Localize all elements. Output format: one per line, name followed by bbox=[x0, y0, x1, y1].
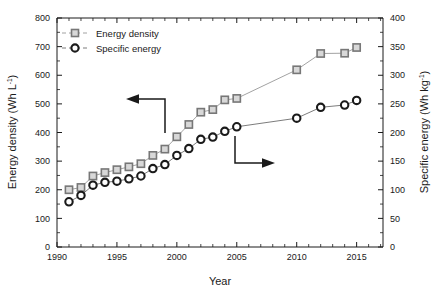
y-left-axis-title-base: Energy density (Wh L bbox=[6, 84, 18, 189]
legend-item-energy-density: Energy density bbox=[62, 28, 159, 39]
data-point-circle bbox=[149, 165, 156, 172]
data-point-circle bbox=[77, 192, 84, 199]
x-tick-label: 1995 bbox=[107, 252, 127, 262]
left-axis-tick-labels: 0100200300400500600700800 bbox=[35, 13, 50, 252]
data-point-circle bbox=[197, 136, 204, 143]
data-point-square bbox=[317, 50, 324, 57]
data-point-square bbox=[77, 184, 84, 191]
right-axis-ticks bbox=[378, 18, 383, 247]
data-point-circle bbox=[341, 101, 348, 108]
chart-svg: 0100200300400500600700800 05010015020025… bbox=[0, 0, 441, 291]
data-point-square bbox=[233, 95, 240, 102]
x-axis-tick-labels: 199019952000200520102015 bbox=[47, 252, 367, 262]
data-point-square bbox=[65, 186, 72, 193]
y-right-axis-title-base: Specific energy (Wh kg bbox=[418, 80, 430, 193]
series-line-energy-density bbox=[69, 47, 357, 189]
data-point-square bbox=[341, 50, 348, 57]
legend-circle-icon bbox=[71, 44, 78, 51]
left-tick-label: 200 bbox=[35, 185, 50, 195]
data-point-circle bbox=[317, 104, 324, 111]
y-right-axis-title: Specific energy (Wh kg-1) bbox=[418, 71, 430, 194]
y-left-axis-title: Energy density (Wh L-1) bbox=[6, 75, 18, 190]
data-point-square bbox=[161, 146, 168, 153]
legend-label-energy-density: Energy density bbox=[96, 28, 159, 39]
left-tick-label: 800 bbox=[35, 13, 50, 23]
data-point-square bbox=[353, 44, 360, 51]
legend-item-specific-energy: Specific energy bbox=[62, 43, 161, 54]
data-point-circle bbox=[221, 128, 228, 135]
data-point-circle bbox=[101, 179, 108, 186]
data-point-circle bbox=[209, 133, 216, 140]
data-point-circle bbox=[161, 161, 168, 168]
right-axis-arrow bbox=[235, 136, 275, 168]
right-tick-label: 300 bbox=[390, 70, 405, 80]
data-point-circle bbox=[353, 97, 360, 104]
data-point-circle bbox=[293, 114, 300, 121]
x-axis-title: Year bbox=[209, 275, 232, 287]
chart-legend: Energy density Specific energy bbox=[62, 28, 161, 54]
right-tick-label: 50 bbox=[390, 214, 400, 224]
data-point-circle bbox=[125, 175, 132, 182]
data-point-circle bbox=[113, 177, 120, 184]
right-tick-label: 350 bbox=[390, 42, 405, 52]
legend-square-icon bbox=[72, 30, 79, 37]
chart-figure: 0100200300400500600700800 05010015020025… bbox=[0, 0, 441, 291]
data-point-square bbox=[125, 163, 132, 170]
data-point-circle bbox=[233, 123, 240, 130]
y-left-axis-title-tail: ) bbox=[6, 75, 18, 79]
data-point-square bbox=[293, 66, 300, 73]
data-point-square bbox=[113, 166, 120, 173]
data-point-circle bbox=[137, 172, 144, 179]
y-right-axis-title-tail: ) bbox=[418, 71, 430, 75]
left-axis-ticks bbox=[57, 18, 62, 247]
legend-label-specific-energy: Specific energy bbox=[96, 43, 161, 54]
left-tick-label: 400 bbox=[35, 128, 50, 138]
right-axis-tick-labels: 050100150200250300350400 bbox=[390, 13, 405, 252]
data-point-circle bbox=[89, 181, 96, 188]
left-tick-label: 0 bbox=[45, 242, 50, 252]
data-point-square bbox=[101, 169, 108, 176]
left-tick-label: 500 bbox=[35, 99, 50, 109]
data-point-square bbox=[209, 106, 216, 113]
data-point-square bbox=[197, 109, 204, 116]
data-point-square bbox=[185, 121, 192, 128]
data-point-circle bbox=[65, 198, 72, 205]
x-tick-label: 2015 bbox=[347, 252, 367, 262]
left-tick-label: 700 bbox=[35, 42, 50, 52]
x-tick-label: 2005 bbox=[227, 252, 247, 262]
right-tick-label: 200 bbox=[390, 128, 405, 138]
right-tick-label: 0 bbox=[390, 242, 395, 252]
left-tick-label: 600 bbox=[35, 70, 50, 80]
data-series-layer bbox=[65, 44, 360, 206]
right-tick-label: 400 bbox=[390, 13, 405, 23]
data-point-square bbox=[173, 133, 180, 140]
series-line-specific-energy bbox=[69, 100, 357, 201]
right-tick-label: 250 bbox=[390, 99, 405, 109]
data-point-circle bbox=[185, 145, 192, 152]
left-tick-label: 300 bbox=[35, 156, 50, 166]
data-point-square bbox=[137, 160, 144, 167]
data-point-square bbox=[221, 96, 228, 103]
x-tick-label: 2010 bbox=[287, 252, 307, 262]
data-point-square bbox=[149, 152, 156, 159]
data-point-circle bbox=[173, 152, 180, 159]
left-tick-label: 100 bbox=[35, 214, 50, 224]
data-point-square bbox=[89, 172, 96, 179]
right-tick-label: 150 bbox=[390, 156, 405, 166]
x-tick-label: 1990 bbox=[47, 252, 67, 262]
left-axis-arrow bbox=[126, 94, 165, 133]
x-tick-label: 2000 bbox=[167, 252, 187, 262]
right-tick-label: 100 bbox=[390, 185, 405, 195]
